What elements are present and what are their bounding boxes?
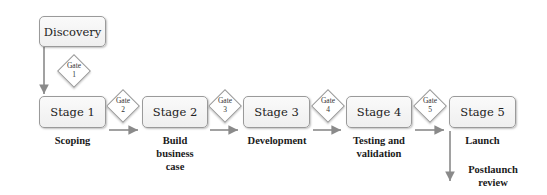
stage-4-caption: Testing and validation bbox=[336, 134, 422, 160]
stage-5-caption: Launch bbox=[449, 134, 516, 147]
stage-1-box: Stage 1 bbox=[39, 96, 106, 128]
gate-4: Gate4 bbox=[310, 88, 346, 124]
gate-3: Gate3 bbox=[207, 88, 243, 124]
gate-5: Gate5 bbox=[412, 88, 448, 124]
gate-2: Gate2 bbox=[105, 88, 141, 124]
gate-1: Gate1 bbox=[56, 53, 92, 89]
stage-5-label: Stage 5 bbox=[460, 105, 505, 119]
stage-3-box: Stage 3 bbox=[243, 96, 310, 128]
stage-4-box: Stage 4 bbox=[346, 96, 412, 128]
stage-2-box: Stage 2 bbox=[142, 96, 208, 128]
stage-4-label: Stage 4 bbox=[357, 105, 402, 119]
postlaunch-caption: Postlaunch review bbox=[454, 163, 532, 189]
discovery-label: Discovery bbox=[44, 25, 101, 39]
stage-1-label: Stage 1 bbox=[50, 105, 95, 119]
stage-3-caption: Development bbox=[236, 134, 318, 147]
stage-1-caption: Scoping bbox=[39, 134, 106, 147]
discovery-box: Discovery bbox=[39, 16, 106, 47]
stage-2-caption: Build business case bbox=[135, 134, 215, 173]
stage-2-label: Stage 2 bbox=[153, 105, 198, 119]
stage-5-box: Stage 5 bbox=[449, 96, 516, 128]
stage-3-label: Stage 3 bbox=[254, 105, 299, 119]
